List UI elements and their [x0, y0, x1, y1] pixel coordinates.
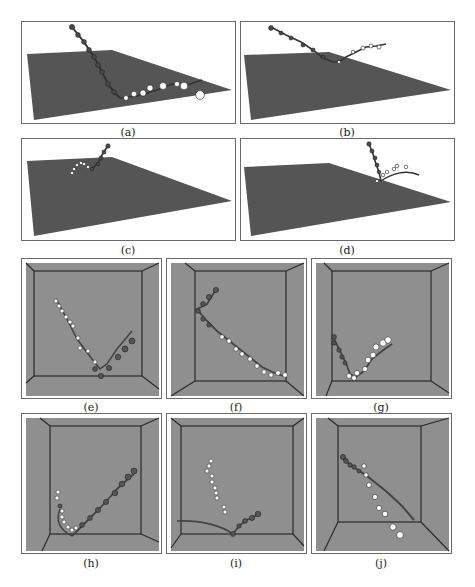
caption-h: (h) — [71, 557, 111, 570]
panel-j — [311, 413, 452, 554]
plane-scene-a — [22, 22, 236, 124]
room-scene-h — [22, 414, 162, 554]
plane-scene-b — [241, 22, 455, 124]
caption-d: (d) — [327, 244, 367, 257]
room-scene-j — [312, 414, 452, 554]
panel-d — [240, 138, 455, 241]
panel-g — [311, 258, 452, 399]
panel-b — [240, 21, 455, 124]
plane-scene-d — [241, 139, 455, 241]
panel-a — [21, 21, 236, 124]
panel-h — [21, 413, 162, 554]
caption-i: (i) — [216, 557, 256, 570]
panel-f — [166, 258, 307, 399]
room-scene-f — [167, 259, 307, 399]
room-scene-e — [22, 259, 162, 399]
plane-scene-c — [22, 139, 236, 241]
caption-j: (j) — [361, 557, 401, 570]
panel-i — [166, 413, 307, 554]
room-scene-i — [167, 414, 307, 554]
caption-c: (c) — [108, 244, 148, 257]
panel-e — [21, 258, 162, 399]
room-scene-g — [312, 259, 452, 399]
panel-c — [21, 138, 236, 241]
